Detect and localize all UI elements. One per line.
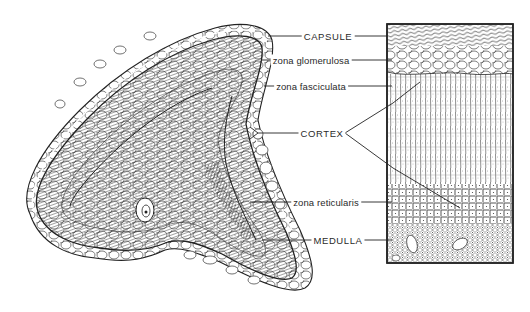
label-capsule: CAPSULE: [302, 31, 355, 42]
panel-fasciculata-layer: [387, 74, 513, 184]
panel-reticularis-layer: [387, 184, 513, 224]
panel-glomerulosa-layer: [387, 46, 513, 74]
label-cortex: CORTEX: [298, 128, 345, 139]
label-medulla: MEDULLA: [311, 235, 364, 246]
label-zona-glomerulosa: zona glomerulosa: [271, 55, 352, 66]
adrenal-gland-figure: [0, 0, 530, 312]
label-zona-fasciculata: zona fasciculata: [274, 81, 348, 92]
panel-capsule-layer: [387, 24, 513, 46]
label-zona-reticularis: zona reticularis: [291, 197, 361, 208]
gland-cross-section: [27, 24, 313, 290]
central-vein: [136, 198, 154, 222]
histology-panel: [387, 24, 513, 263]
panel-medulla-layer: [387, 224, 513, 263]
